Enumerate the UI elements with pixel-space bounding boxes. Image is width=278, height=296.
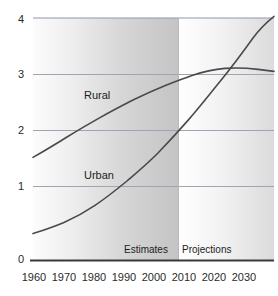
x-axis-tick-1970: 1970 xyxy=(47,272,81,283)
annotation-projections: Projections xyxy=(182,245,231,255)
estimates-shaded-band xyxy=(33,18,178,260)
chart-container: 4 3 2 1 0 1960 1970 1980 1990 2000 2010 … xyxy=(0,0,278,296)
series-label-rural: Rural xyxy=(84,90,110,101)
x-axis-tick-2020: 2020 xyxy=(197,272,231,283)
x-axis-tick-1960: 1960 xyxy=(17,272,51,283)
annotation-estimates: Estimates xyxy=(124,245,168,255)
y-axis-tick-0: 0 xyxy=(8,254,24,265)
x-axis-tick-2030: 2030 xyxy=(227,272,261,283)
series-label-urban: Urban xyxy=(84,170,114,181)
x-axis-tick-1990: 1990 xyxy=(107,272,141,283)
x-axis-tick-1980: 1980 xyxy=(77,272,111,283)
projections-shaded-band xyxy=(178,18,274,260)
y-axis-tick-1: 1 xyxy=(8,181,24,192)
x-axis-tick-2010: 2010 xyxy=(167,272,201,283)
y-axis-tick-3: 3 xyxy=(8,69,24,80)
x-axis-tick-2000: 2000 xyxy=(137,272,171,283)
y-axis-tick-4: 4 xyxy=(8,14,24,25)
y-axis-tick-2: 2 xyxy=(8,125,24,136)
